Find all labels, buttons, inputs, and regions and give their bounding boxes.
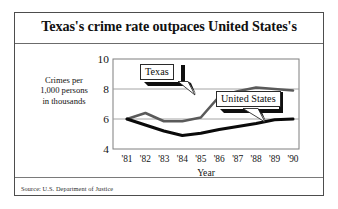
y-tick-4: 4 bbox=[103, 143, 109, 155]
x-tick-83: '83 bbox=[158, 154, 169, 164]
x-tick-90: '90 bbox=[287, 154, 298, 164]
x-tick-86: '86 bbox=[214, 154, 225, 164]
x-tick-82: '82 bbox=[140, 154, 151, 164]
series-united-states bbox=[127, 119, 293, 136]
y-tick-10: 10 bbox=[98, 53, 110, 65]
x-tick-84: '84 bbox=[177, 154, 188, 164]
y-tick-6: 6 bbox=[103, 113, 109, 125]
x-tick-87: '87 bbox=[232, 154, 243, 164]
source-divider bbox=[15, 177, 323, 178]
x-tick-81: '81 bbox=[121, 154, 132, 164]
callout-label-united-states[interactable]: United States bbox=[216, 91, 281, 107]
callout-label-texas[interactable]: Texas bbox=[140, 64, 174, 80]
chart-figure: Texas's crime rate outpaces United State… bbox=[14, 12, 324, 196]
x-tick-89: '89 bbox=[269, 154, 280, 164]
x-tick-88: '88 bbox=[251, 154, 262, 164]
y-tick-labels: 10 8 6 4 bbox=[98, 53, 110, 155]
x-tick-85: '85 bbox=[195, 154, 206, 164]
x-tick-labels: '81'82'83'84'85'86'87'88'89'90 bbox=[121, 154, 298, 164]
source-note: Source: U.S. Department of Justice bbox=[21, 185, 113, 192]
y-tick-8: 8 bbox=[103, 83, 109, 95]
